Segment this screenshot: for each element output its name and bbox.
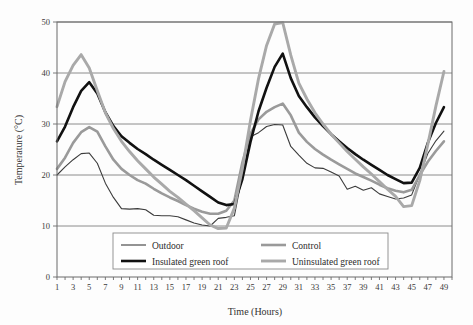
y-tick-label: 20 — [42, 170, 51, 180]
y-tick-label: 10 — [42, 221, 51, 231]
y-tick-label: 30 — [42, 119, 51, 129]
temperature-line-chart: 1357911131517192123252729313335373941434… — [0, 0, 473, 325]
series-line-uninsulated-green-roof — [57, 23, 444, 229]
x-tick-label: 31 — [295, 282, 304, 292]
y-axis-ticks: 01020304050 — [42, 17, 58, 282]
x-tick-label: 11 — [134, 282, 142, 292]
x-tick-label: 49 — [440, 282, 449, 292]
x-axis-title: Time (Hours) — [228, 306, 282, 318]
legend-label: Control — [292, 241, 321, 251]
chart-figure: 1357911131517192123252729313335373941434… — [0, 0, 473, 325]
x-tick-label: 41 — [375, 282, 384, 292]
x-tick-label: 35 — [327, 282, 336, 292]
x-tick-label: 21 — [214, 282, 223, 292]
y-tick-label: 0 — [46, 272, 50, 282]
data-series-group — [57, 23, 444, 229]
legend-label: Uninsulated green roof — [292, 257, 380, 267]
x-tick-label: 17 — [182, 282, 191, 292]
chart-legend: OutdoorControlInsulated green roofUninsu… — [113, 233, 388, 269]
x-axis-ticks: 1357911131517192123252729313335373941434… — [55, 277, 452, 292]
y-tick-label: 50 — [42, 17, 51, 27]
x-tick-label: 1 — [55, 282, 59, 292]
y-axis-title: Temperature (°C) — [13, 115, 25, 185]
x-tick-label: 39 — [359, 282, 368, 292]
x-tick-label: 13 — [149, 282, 158, 292]
y-tick-label: 40 — [42, 68, 51, 78]
legend-label: Insulated green roof — [152, 257, 229, 267]
x-tick-label: 45 — [407, 282, 416, 292]
x-tick-label: 29 — [278, 282, 287, 292]
x-tick-label: 37 — [343, 282, 352, 292]
x-tick-label: 9 — [119, 282, 123, 292]
x-tick-label: 43 — [391, 282, 400, 292]
x-tick-label: 47 — [424, 282, 433, 292]
x-tick-label: 3 — [71, 282, 75, 292]
x-tick-label: 19 — [198, 282, 207, 292]
x-tick-label: 23 — [230, 282, 239, 292]
legend-label: Outdoor — [152, 241, 185, 251]
x-tick-label: 15 — [166, 282, 175, 292]
x-tick-label: 33 — [311, 282, 320, 292]
x-tick-label: 7 — [103, 282, 107, 292]
x-tick-label: 25 — [246, 282, 255, 292]
x-tick-label: 27 — [262, 282, 271, 292]
x-tick-label: 5 — [87, 282, 91, 292]
